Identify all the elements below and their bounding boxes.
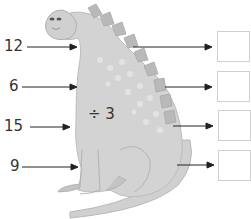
input-arrows: [22, 44, 78, 170]
input-value-2: 6: [9, 79, 19, 94]
output-box-4[interactable]: [218, 150, 251, 181]
input-value-3: 15: [4, 119, 23, 134]
input-value-4: 9: [10, 159, 20, 174]
operation-label: ÷ 3: [88, 107, 115, 122]
output-box-2[interactable]: [217, 71, 250, 102]
function-machine-diagram: 12 6 15 9 ÷ 3: [0, 0, 251, 219]
output-box-3[interactable]: [218, 110, 251, 141]
output-box-1[interactable]: [217, 31, 250, 62]
dinosaur-illustration: [0, 0, 251, 219]
input-value-1: 12: [4, 39, 23, 54]
